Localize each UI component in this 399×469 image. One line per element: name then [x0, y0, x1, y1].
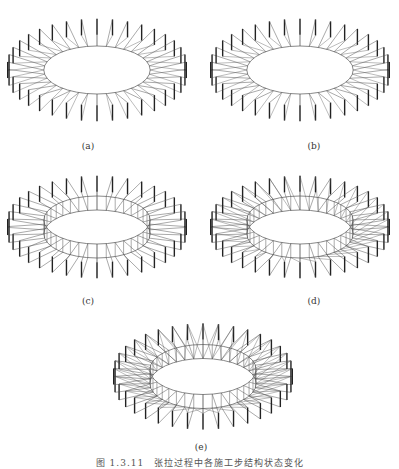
- panel-a: [2, 8, 192, 128]
- cable-dome-diagram-d: [205, 165, 395, 285]
- panel-b: [205, 8, 395, 128]
- panel-c: [2, 165, 192, 285]
- cable-dome-diagram-e: [108, 312, 298, 437]
- cable-dome-diagram-b: [205, 8, 395, 128]
- panel-label-e: (e): [181, 442, 221, 452]
- panel-label-b: (b): [294, 141, 334, 151]
- panel-label-d: (d): [294, 296, 334, 306]
- cable-dome-diagram-c: [2, 165, 192, 285]
- figure-caption: 图 1.3.11 张拉过程中各施工步结构状态变化: [60, 456, 340, 469]
- panel-label-c: (c): [68, 296, 108, 306]
- panel-e: [108, 312, 298, 437]
- panel-label-a: (a): [68, 141, 108, 151]
- panel-d: [205, 165, 395, 285]
- cable-dome-diagram-a: [2, 8, 192, 128]
